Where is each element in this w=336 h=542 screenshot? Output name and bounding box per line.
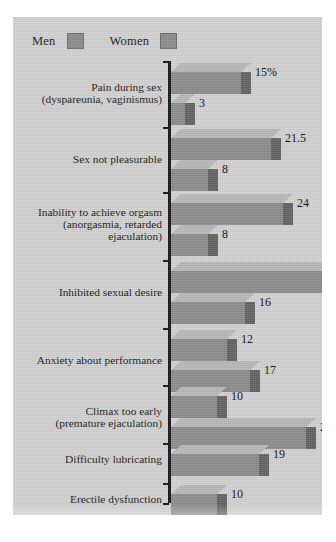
- category-label: Climax too early(premature ejaculation): [13, 405, 162, 430]
- category-label-line: Pain during sex: [13, 81, 162, 93]
- category-label: Inability to achieve orgasm(anorgasmia, …: [13, 206, 162, 243]
- legend-item-men: Men: [32, 33, 84, 49]
- category-label: Anxiety about performance: [13, 354, 162, 366]
- bar-top-face: [171, 418, 316, 427]
- bar-top-face: [171, 129, 281, 138]
- category-label-line: Inability to achieve orgasm: [13, 206, 162, 218]
- bar-side-face: [208, 234, 218, 256]
- bar-value-label: 3: [199, 96, 205, 111]
- legend-label-women: Women: [110, 34, 150, 49]
- category-label: Difficulty lubricating: [13, 453, 162, 465]
- bar-side-face: [185, 103, 195, 125]
- category-label-line: Difficulty lubricating: [13, 453, 162, 465]
- plot-area: 15%3Pain during sex(dyspareunia, vaginis…: [13, 55, 322, 510]
- bar-value-label: 19: [273, 447, 285, 462]
- category-label-line: ejaculation): [13, 230, 162, 242]
- chart-legend: Men Women: [32, 31, 177, 51]
- bar-front-face: [171, 138, 271, 160]
- category-label: Inhibited sexual desire: [13, 286, 162, 298]
- bar-side-face: [208, 169, 218, 191]
- bar-value-label: 29: [320, 420, 322, 435]
- bar-front-face: [171, 103, 185, 125]
- chart-panel: Men Women 15%3Pain during sex(dyspareuni…: [13, 17, 322, 515]
- bar-side-face: [306, 427, 316, 449]
- category-label-line: Anxiety about performance: [13, 354, 162, 366]
- category-label-line: Erectile dysfunction: [13, 493, 162, 505]
- bar-side-face: [227, 339, 237, 361]
- bar-front-face: [171, 396, 217, 418]
- bar-front-face: [171, 494, 217, 515]
- bar-front-face: [171, 203, 283, 225]
- bar-front-face: [171, 234, 208, 256]
- bar-side-face: [241, 72, 251, 94]
- bar-side-face: [245, 302, 255, 324]
- bar-front-face: [171, 72, 241, 94]
- bar-front-face: [171, 271, 322, 293]
- axis-tick: [163, 385, 169, 387]
- category-label-line: (anorgasmia, retarded: [13, 218, 162, 230]
- bar-top-face: [171, 330, 237, 339]
- bar-value-label: 15%: [255, 65, 277, 80]
- bar-side-face: [217, 396, 227, 418]
- bar-side-face: [271, 138, 281, 160]
- bar-top-face: [171, 361, 260, 370]
- bar-top-face: [171, 293, 255, 302]
- axis-tick: [163, 483, 169, 485]
- bar-top-face: [171, 262, 322, 271]
- axis-tick: [163, 61, 169, 63]
- bar-top-face: [171, 225, 218, 234]
- bar-front-face: [171, 169, 208, 191]
- bar-side-face: [250, 370, 260, 392]
- bar-front-face: [171, 454, 259, 476]
- axis-tick: [163, 260, 169, 262]
- category-label-line: Inhibited sexual desire: [13, 286, 162, 298]
- bar-side-face: [259, 454, 269, 476]
- bar-top-face: [171, 485, 227, 494]
- axis-tick: [163, 127, 169, 129]
- axis-tick: [163, 328, 169, 330]
- bar-top-face: [171, 387, 227, 396]
- bar-side-face: [217, 494, 227, 515]
- axis-tick: [163, 443, 169, 445]
- bar-top-face: [171, 194, 293, 203]
- category-label-line: Climax too early: [13, 405, 162, 417]
- bar-top-face: [171, 94, 195, 103]
- bar-value-label: 8: [222, 227, 228, 242]
- bar-value-label: 17: [264, 363, 276, 378]
- category-label: Pain during sex(dyspareunia, vaginismus): [13, 81, 162, 106]
- bar-value-label: 12: [241, 332, 253, 347]
- bar-top-face: [171, 445, 269, 454]
- category-label-line: Sex not pleasurable: [13, 153, 162, 165]
- axis-tick: [163, 503, 169, 505]
- bar-side-face: [283, 203, 293, 225]
- bar-front-face: [171, 302, 245, 324]
- bar-top-face: [171, 160, 218, 169]
- bar-value-label: 8: [222, 162, 228, 177]
- bar-value-label: 21.5: [285, 131, 306, 146]
- bar-value-label: 16: [259, 295, 271, 310]
- bar-top-face: [171, 63, 251, 72]
- legend-swatch-men: [67, 33, 84, 49]
- bar-value-label: 10: [231, 389, 243, 404]
- bar-value-label: 24: [297, 196, 309, 211]
- axis-tick: [163, 192, 169, 194]
- legend-item-women: Women: [110, 33, 178, 49]
- category-label: Sex not pleasurable: [13, 153, 162, 165]
- bar-value-label: 10: [231, 487, 243, 502]
- category-label-line: (premature ejaculation): [13, 417, 162, 429]
- category-label: Erectile dysfunction: [13, 493, 162, 505]
- bar-front-face: [171, 339, 227, 361]
- legend-swatch-women: [160, 33, 177, 49]
- category-label-line: (dyspareunia, vaginismus): [13, 93, 162, 105]
- legend-label-men: Men: [32, 34, 56, 49]
